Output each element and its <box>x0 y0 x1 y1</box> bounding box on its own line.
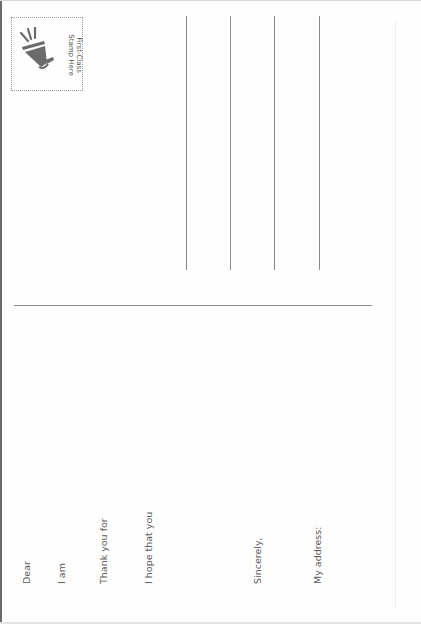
address-line-1[interactable] <box>186 16 187 270</box>
megaphone-icon <box>17 27 57 77</box>
address-line-2[interactable] <box>230 16 231 270</box>
stamp-label: First-Class Stamp Here <box>67 32 82 78</box>
postcard-back: First-Class Stamp Here Dear I am Thank y… <box>0 0 421 624</box>
page-edge-top <box>0 0 421 1</box>
scan-artifact <box>395 20 396 610</box>
page-edge-left <box>0 0 2 624</box>
prompt-i-am: I am <box>56 563 67 584</box>
prompt-thank-you-for: Thank you for <box>98 518 109 584</box>
address-line-3[interactable] <box>274 16 275 270</box>
prompt-dear: Dear <box>21 561 32 584</box>
stamp-label-line2: Stamp Here <box>67 32 75 78</box>
address-line-4[interactable] <box>319 16 320 270</box>
prompt-sincerely: Sincerely, <box>252 537 263 584</box>
prompt-my-address: My address: <box>312 527 323 584</box>
stamp-label-line1: First-Class <box>75 32 83 78</box>
center-divider <box>14 305 372 306</box>
prompt-i-hope-that-you: I hope that you <box>143 512 154 584</box>
